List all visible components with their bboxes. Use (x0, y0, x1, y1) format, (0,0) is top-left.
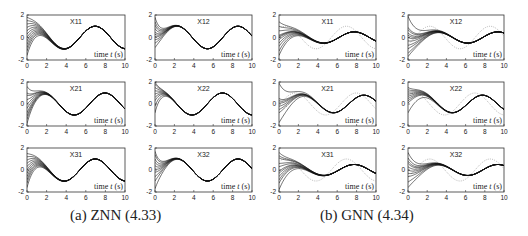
x-axis-label: time t (s) (221, 116, 250, 125)
caption-a: (a) ZNN (4.33) (70, 207, 161, 224)
svg-text:-2: -2 (146, 122, 152, 129)
svg-text:8: 8 (104, 62, 108, 69)
svg-text:6: 6 (211, 194, 215, 201)
subplot-title: X11 (322, 18, 334, 25)
x-axis-label: time t (s) (221, 50, 250, 59)
svg-text:8: 8 (231, 194, 235, 201)
svg-text:6: 6 (211, 62, 215, 69)
svg-text:0: 0 (153, 62, 157, 69)
subplot-title: X12 (450, 18, 463, 25)
svg-text:2: 2 (148, 144, 152, 151)
svg-text:-2: -2 (146, 188, 152, 195)
svg-text:0: 0 (20, 34, 24, 41)
svg-text:-2: -2 (270, 56, 276, 63)
svg-text:0: 0 (153, 128, 157, 135)
svg-text:-2: -2 (18, 122, 24, 129)
svg-text:2: 2 (148, 78, 152, 85)
subplot-gnn-x31: 0246810-202X31time t (s) (270, 144, 380, 201)
svg-text:10: 10 (248, 62, 256, 69)
svg-text:4: 4 (64, 194, 68, 201)
svg-text:10: 10 (500, 128, 508, 135)
svg-text:0: 0 (148, 34, 152, 41)
svg-text:4: 4 (316, 128, 320, 135)
svg-text:0: 0 (401, 34, 405, 41)
svg-text:4: 4 (192, 62, 196, 69)
svg-text:0: 0 (272, 166, 276, 173)
svg-text:8: 8 (483, 194, 487, 201)
subplot-znn-x32: 0246810-202X32time t (s) (146, 144, 256, 201)
subplot-title: X32 (197, 151, 210, 158)
svg-text:6: 6 (464, 194, 468, 201)
svg-text:6: 6 (464, 128, 468, 135)
svg-text:8: 8 (355, 62, 359, 69)
subplot-title: X32 (450, 151, 463, 158)
svg-text:2: 2 (20, 144, 24, 151)
svg-text:6: 6 (84, 62, 88, 69)
svg-text:6: 6 (464, 62, 468, 69)
subplot-gnn-x32: 0246810-202X32time t (s) (399, 144, 508, 201)
svg-text:4: 4 (192, 194, 196, 201)
svg-text:-2: -2 (18, 56, 24, 63)
svg-text:10: 10 (500, 62, 508, 69)
svg-text:2: 2 (297, 62, 301, 69)
svg-text:2: 2 (425, 194, 429, 201)
svg-text:0: 0 (25, 194, 29, 201)
subplot-znn-x11: 0246810-202X11time t (s) (18, 11, 129, 69)
svg-text:4: 4 (64, 128, 68, 135)
x-axis-label: time t (s) (94, 50, 123, 59)
subplot-znn-x21: 0246810-202X21time t (s) (18, 78, 129, 135)
svg-text:6: 6 (335, 194, 339, 201)
svg-text:2: 2 (173, 194, 177, 201)
svg-text:2: 2 (148, 11, 152, 18)
svg-text:8: 8 (231, 128, 235, 135)
svg-text:0: 0 (277, 62, 281, 69)
svg-text:8: 8 (104, 194, 108, 201)
svg-text:0: 0 (20, 166, 24, 173)
svg-text:0: 0 (406, 194, 410, 201)
svg-text:2: 2 (272, 144, 276, 151)
svg-text:6: 6 (335, 128, 339, 135)
svg-text:6: 6 (84, 128, 88, 135)
x-axis-label: time t (s) (221, 182, 250, 191)
svg-text:6: 6 (335, 62, 339, 69)
x-axis-label: time t (s) (473, 116, 502, 125)
svg-text:4: 4 (445, 128, 449, 135)
svg-text:-2: -2 (146, 56, 152, 63)
subplot-gnn-x21: 0246810-202X21time t (s) (270, 78, 380, 135)
svg-text:10: 10 (372, 62, 380, 69)
svg-text:2: 2 (401, 78, 405, 85)
figure-canvas: 0246810-202X11time t (s)0246810-202X12ti… (0, 0, 528, 236)
subplot-znn-x12: 0246810-202X12time t (s) (146, 11, 256, 69)
svg-text:10: 10 (372, 128, 380, 135)
svg-text:10: 10 (121, 194, 129, 201)
svg-text:0: 0 (25, 128, 29, 135)
svg-text:0: 0 (406, 62, 410, 69)
svg-text:2: 2 (45, 128, 49, 135)
subplot-title: X31 (321, 151, 334, 158)
svg-text:2: 2 (45, 62, 49, 69)
svg-text:0: 0 (148, 100, 152, 107)
x-axis-label: time t (s) (345, 50, 374, 59)
svg-text:2: 2 (173, 62, 177, 69)
svg-text:8: 8 (355, 128, 359, 135)
svg-text:6: 6 (84, 194, 88, 201)
subplot-title: X21 (321, 85, 334, 92)
x-axis-label: time t (s) (94, 116, 123, 125)
subplot-title: X22 (450, 85, 463, 92)
svg-text:4: 4 (445, 194, 449, 201)
svg-text:0: 0 (401, 166, 405, 173)
svg-text:0: 0 (272, 34, 276, 41)
svg-text:6: 6 (211, 128, 215, 135)
svg-text:0: 0 (272, 100, 276, 107)
subplot-gnn-x22: 0246810-202X22time t (s) (399, 78, 508, 135)
svg-text:-2: -2 (399, 56, 405, 63)
svg-text:8: 8 (231, 62, 235, 69)
svg-text:2: 2 (297, 128, 301, 135)
svg-text:0: 0 (277, 194, 281, 201)
x-axis-label: time t (s) (473, 50, 502, 59)
svg-text:10: 10 (248, 128, 256, 135)
subplot-title: X12 (197, 18, 210, 25)
svg-text:2: 2 (401, 11, 405, 18)
subplot-gnn-x12: 0246810-202X12time t (s) (399, 11, 508, 69)
subplot-gnn-x11: 0246810-202X11time t (s) (270, 11, 380, 69)
